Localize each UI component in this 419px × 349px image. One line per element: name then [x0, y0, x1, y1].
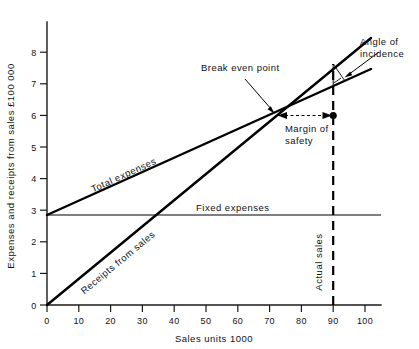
series-group — [47, 38, 381, 305]
margin-of-safety-endpoint-dot — [330, 112, 337, 119]
y-tick-label-4: 4 — [31, 174, 36, 184]
y-tick-label-2: 2 — [31, 237, 36, 247]
y-tick-label-7: 7 — [31, 79, 36, 89]
margin-of-safety-label-line2: safety — [285, 135, 313, 146]
x-axis-ticks — [47, 305, 365, 312]
x-tick-label-80: 80 — [296, 316, 307, 326]
x-axis-title: Sales units 1000 — [175, 333, 253, 344]
annotation-margin-of-safety: Margin of safety — [278, 112, 337, 146]
series-label-total-expenses: Total expenses — [89, 155, 158, 194]
x-axis-tick-labels: 0 10 20 30 40 50 60 70 80 90 100 — [44, 316, 373, 326]
x-tick-label-70: 70 — [264, 316, 275, 326]
series-label-fixed-expenses: Fixed expenses — [196, 202, 270, 213]
y-tick-label-3: 3 — [31, 206, 36, 216]
x-tick-label-20: 20 — [105, 316, 116, 326]
y-tick-label-0: 0 — [31, 301, 36, 311]
series-label-actual-sales: Actual sales — [313, 233, 324, 290]
x-tick-label-10: 10 — [73, 316, 84, 326]
y-axis-tick-labels: 0 1 2 3 4 5 6 7 8 — [31, 48, 36, 311]
y-axis-title: Expenses and receipts from sales £100 00… — [5, 63, 16, 268]
x-tick-label-30: 30 — [137, 316, 148, 326]
break-even-point-leader — [245, 79, 272, 110]
angle-of-incidence-label-line2: incidence — [360, 48, 404, 59]
break-even-point-label: Break even point — [201, 62, 280, 73]
annotation-break-even-point: Break even point — [201, 62, 280, 114]
y-tick-label-6: 6 — [31, 111, 36, 121]
x-tick-label-100: 100 — [357, 316, 373, 326]
series-label-receipts-from-sales: Receipts from sales — [78, 229, 157, 297]
x-tick-label-0: 0 — [44, 316, 49, 326]
y-tick-label-1: 1 — [31, 269, 36, 279]
break-even-point-arrowhead — [268, 106, 275, 113]
margin-of-safety-label-line1: Margin of — [285, 123, 329, 134]
chart-canvas: 0 1 2 3 4 5 6 7 8 0 10 20 — [0, 0, 419, 349]
y-tick-label-5: 5 — [31, 143, 36, 153]
break-even-chart: 0 1 2 3 4 5 6 7 8 0 10 20 — [0, 0, 419, 349]
x-tick-label-90: 90 — [328, 316, 339, 326]
x-tick-label-40: 40 — [169, 316, 180, 326]
y-tick-label-8: 8 — [31, 48, 36, 58]
x-tick-label-60: 60 — [232, 316, 243, 326]
angle-of-incidence-label-line1: Angle of — [360, 36, 398, 47]
y-axis-ticks — [40, 52, 47, 305]
x-tick-label-50: 50 — [201, 316, 212, 326]
